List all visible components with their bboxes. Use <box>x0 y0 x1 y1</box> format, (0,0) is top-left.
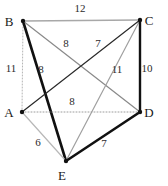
graph-node-b <box>21 19 25 23</box>
graph-edge-bc <box>23 20 140 21</box>
node-label-e: E <box>58 168 66 183</box>
edge-weight-ce: 7 <box>95 37 101 49</box>
edge-weight-bd: 8 <box>63 37 69 49</box>
graph-canvas: 12118871110867 ABCDE <box>0 0 168 186</box>
graph-node-e <box>64 159 68 163</box>
node-label-b: B <box>5 14 14 29</box>
graph-edge-ab <box>22 21 23 112</box>
edge-weight-ad: 8 <box>69 95 75 107</box>
edge-weight-ab: 11 <box>6 62 17 74</box>
graph-node-a <box>20 110 24 114</box>
node-label-d: D <box>144 105 153 120</box>
node-label-layer: ABCDE <box>4 13 153 183</box>
edge-weight-cd: 10 <box>142 62 154 74</box>
graph-node-c <box>138 18 142 22</box>
edge-weight-bc: 12 <box>75 2 86 14</box>
edge-weight-be: 8 <box>38 63 44 75</box>
node-label-c: C <box>145 13 154 28</box>
edge-weight-de: 7 <box>101 137 107 149</box>
weighted-graph-figure: 12118871110867 ABCDE <box>0 0 168 186</box>
node-label-a: A <box>4 105 14 120</box>
edge-weight-ca: 11 <box>112 63 123 75</box>
graph-node-d <box>138 110 142 114</box>
edge-weight-ae: 6 <box>35 136 41 148</box>
graph-edge-be <box>23 21 66 161</box>
